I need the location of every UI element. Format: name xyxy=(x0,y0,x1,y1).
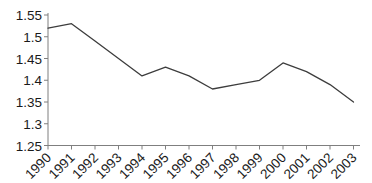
y-axis-tick-label: 1.3 xyxy=(23,117,42,132)
x-axis-tick-label: 1995 xyxy=(140,150,172,182)
x-axis-tick-label: 1993 xyxy=(93,150,125,182)
y-axis-tick-label: 1.25 xyxy=(16,139,42,154)
data-series-line xyxy=(48,24,354,102)
x-axis-tick-label: 1990 xyxy=(22,150,54,182)
chart-container: 1.551.51.451.41.351.31.25199019911992199… xyxy=(0,0,372,183)
y-axis-tick-label: 1.5 xyxy=(23,30,42,45)
y-axis-tick-label: 1.55 xyxy=(16,8,42,23)
x-axis-tick-label: 1998 xyxy=(210,150,242,182)
y-axis-tick-label: 1.45 xyxy=(16,52,42,67)
x-axis-tick-label: 1996 xyxy=(163,150,195,182)
x-axis-tick-label: 1994 xyxy=(116,150,148,182)
y-axis-tick-label: 1.4 xyxy=(23,73,42,88)
x-axis-tick-label: 2003 xyxy=(328,150,360,182)
x-axis-tick-label: 1992 xyxy=(69,150,101,182)
x-axis-tick-label: 1991 xyxy=(46,150,78,182)
x-axis-tick-label: 2001 xyxy=(281,150,313,182)
line-chart-svg: 1.551.51.451.41.351.31.25199019911992199… xyxy=(0,0,372,183)
y-axis-tick-label: 1.35 xyxy=(16,95,42,110)
x-axis-tick-label: 1999 xyxy=(234,150,266,182)
x-axis-tick-label: 2002 xyxy=(304,150,336,182)
x-axis-tick-label: 2000 xyxy=(257,150,289,182)
x-axis-tick-label: 1997 xyxy=(187,150,219,182)
